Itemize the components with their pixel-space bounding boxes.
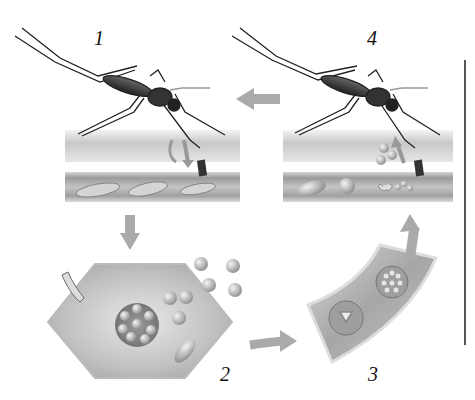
malaria-life-cycle-diagram: 1 2 3 4 (0, 0, 475, 400)
skin-layer (283, 130, 453, 162)
stage-label-4: 4 (367, 28, 377, 48)
stage-1-panel (15, 28, 240, 202)
curved-vessel (308, 245, 436, 362)
stage-3-blood-vessel (308, 245, 436, 362)
stage-label-3: 3 (368, 364, 378, 384)
stage-2-liver-cell (48, 257, 242, 378)
border-line (464, 60, 466, 345)
skin-layer (65, 130, 240, 162)
stage-label-2: 2 (220, 364, 230, 384)
arrow-1-to-2 (120, 215, 140, 250)
arrow-4-to-1 (236, 88, 280, 110)
arrow-2-to-3 (250, 330, 297, 352)
stage-4-panel (232, 28, 453, 202)
stage-label-1: 1 (94, 28, 104, 48)
